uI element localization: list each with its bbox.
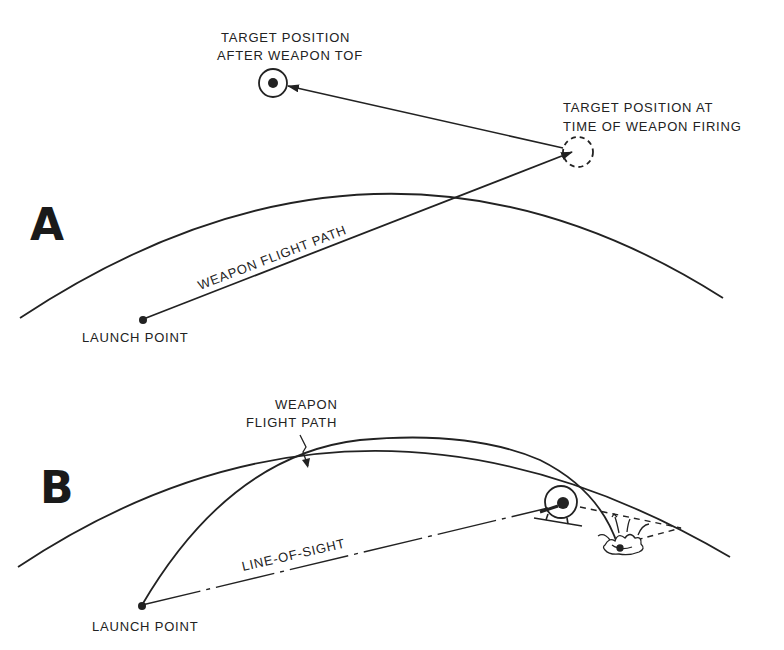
- target-at-firing-icon: [563, 137, 593, 167]
- panel-b: B: [18, 397, 730, 634]
- panel-a-letter: A: [30, 199, 64, 250]
- earth-horizon-arc-a: [20, 194, 723, 318]
- launch-point-label-a: LAUNCH POINT: [82, 330, 188, 345]
- weapon-flight-path-label-b-line2: FLIGHT PATH: [246, 415, 337, 430]
- weapon-flight-path-label-a: WEAPON FLIGHT PATH: [196, 222, 349, 293]
- launch-point-label-b: LAUNCH POINT: [92, 619, 198, 634]
- launch-point-a-icon: [139, 316, 147, 324]
- panel-a: A TARGET POSITION AFTER WEAPON TOF TARGE…: [20, 30, 742, 345]
- pointer-arrowhead-icon: [302, 458, 310, 468]
- target-at-firing-label-line1: TARGET POSITION AT: [563, 100, 713, 115]
- weapon-flight-path-b: [142, 438, 618, 606]
- weapon-flight-path-a: [146, 152, 572, 318]
- target-at-firing-label-line2: TIME OF WEAPON FIRING: [563, 119, 742, 134]
- target-motion-line: [288, 86, 563, 148]
- weapon-flight-diagram: A TARGET POSITION AFTER WEAPON TOF TARGE…: [0, 0, 784, 650]
- panel-b-letter: B: [40, 462, 74, 513]
- weapon-flight-path-label-b-line1: WEAPON: [275, 397, 338, 412]
- target-after-tof-label-line2: AFTER WEAPON TOF: [217, 48, 363, 63]
- launch-point-b-icon: [138, 602, 146, 610]
- target-after-tof-label-line1: TARGET POSITION: [221, 30, 350, 45]
- target-after-tof-icon: [259, 69, 287, 97]
- radar-target-icon: [534, 486, 582, 526]
